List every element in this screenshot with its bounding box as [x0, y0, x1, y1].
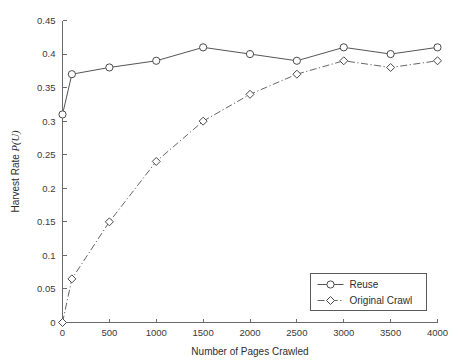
series-reuse — [59, 44, 441, 118]
x-tick-label: 1500 — [193, 327, 214, 338]
y-tick-label: 0.4 — [42, 48, 55, 59]
x-tick-label: 3500 — [380, 327, 401, 338]
data-point-marker-circle — [153, 57, 160, 64]
legend-label: Original Crawl — [350, 295, 413, 306]
y-tick-label: 0.05 — [37, 283, 56, 294]
data-point-marker-circle — [68, 71, 75, 78]
x-tick-label: 500 — [101, 327, 117, 338]
data-point-marker-diamond — [387, 63, 395, 71]
data-point-marker-circle — [387, 50, 394, 57]
data-point-marker-circle — [106, 64, 113, 71]
data-point-marker-diamond — [293, 70, 301, 78]
x-tick-label: 0 — [60, 327, 65, 338]
chart-legend: ReuseOriginal Crawl — [311, 274, 427, 311]
data-point-marker-diamond — [340, 57, 348, 65]
data-point-marker-diamond — [59, 319, 67, 327]
data-point-marker-circle — [293, 57, 300, 64]
x-tick-label: 2500 — [286, 327, 307, 338]
x-tick-label: 1000 — [146, 327, 167, 338]
chart-figure: 00.050.10.150.20.250.30.350.40.45 050010… — [0, 0, 453, 363]
y-tick-label: 0.15 — [37, 216, 56, 227]
y-tick-label: 0.2 — [42, 183, 55, 194]
y-tick-label: 0.25 — [37, 149, 56, 160]
x-axis-label: Number of Pages Crawled — [191, 346, 308, 357]
data-point-marker-circle — [340, 44, 347, 51]
data-point-marker-circle — [434, 44, 441, 51]
x-tick-label: 3000 — [333, 327, 354, 338]
y-tick-label: 0.1 — [42, 250, 55, 261]
data-point-marker-diamond — [246, 90, 254, 98]
x-axis-ticks: 05001000150020002500300035004000 — [60, 319, 448, 338]
y-tick-label: 0.3 — [42, 116, 55, 127]
legend-label: Reuse — [350, 279, 379, 290]
data-point-marker-circle — [59, 111, 66, 118]
harvest-rate-line-chart: 00.050.10.150.20.250.30.350.40.45 050010… — [0, 0, 453, 363]
y-axis-label: Harvest Rate P(U) — [10, 130, 22, 213]
data-point-marker-circle — [246, 50, 253, 57]
data-point-marker-diamond — [68, 275, 76, 283]
y-tick-label: 0 — [50, 317, 55, 328]
data-point-marker-diamond — [105, 218, 113, 226]
x-tick-label: 4000 — [427, 327, 448, 338]
y-tick-label: 0.45 — [37, 15, 56, 26]
y-axis-label-text: Harvest Rate P(U) — [10, 130, 22, 213]
x-tick-label: 2000 — [239, 327, 260, 338]
data-point-marker-circle — [200, 44, 207, 51]
data-point-marker-circle — [327, 281, 334, 288]
data-point-marker-diamond — [434, 57, 442, 65]
y-tick-label: 0.35 — [37, 82, 56, 93]
